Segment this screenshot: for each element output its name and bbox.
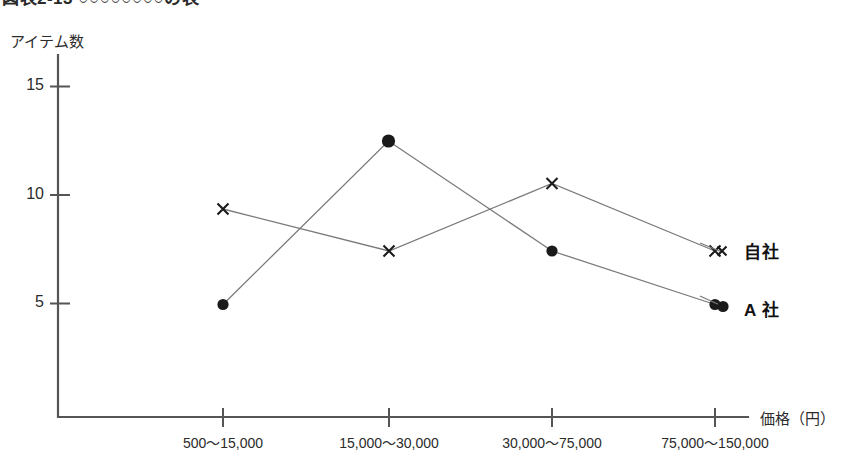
y-tick-label-15: 15	[4, 76, 44, 94]
series-a-company-line	[223, 141, 715, 305]
series-jisha-line	[223, 184, 715, 252]
y-tick-label-10: 10	[4, 185, 44, 203]
x-tick-label-2: 30,000〜75,000	[502, 432, 602, 452]
series-label-jisha: 自社	[744, 238, 780, 263]
axis-lines	[58, 55, 748, 417]
x-tick-label-0: 500〜15,000	[183, 432, 263, 452]
series-jisha	[218, 178, 721, 257]
series-label-a-company: A 社	[744, 296, 780, 321]
plot-area	[0, 0, 865, 468]
x-tick-label-3: 75,000〜150,000	[661, 432, 768, 452]
y-tick-label-5: 5	[4, 293, 44, 311]
legend-dot-marker	[717, 301, 728, 312]
chart-figure: 図表2-13 ○○○○○○○○の表 アイテム数 価格（円）	[0, 0, 865, 468]
y-tick-marks	[50, 87, 70, 304]
x-tick-label-1: 15,000〜30,000	[339, 432, 439, 452]
